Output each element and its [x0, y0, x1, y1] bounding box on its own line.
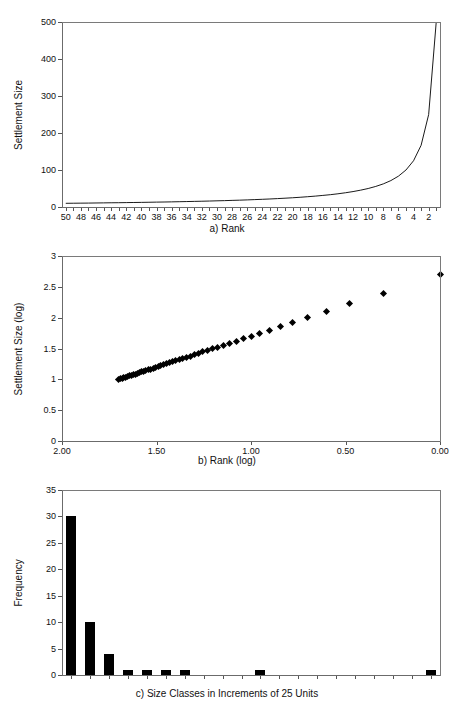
x-axis-tick	[71, 676, 72, 679]
scatter-point	[233, 338, 240, 345]
x-axis-tick-label: 2	[418, 213, 440, 222]
x-axis-tick	[338, 208, 339, 211]
x-axis-tick	[293, 208, 294, 211]
x-axis-tick	[277, 208, 278, 211]
x-axis-tick	[111, 208, 112, 211]
x-axis-tick	[383, 208, 384, 211]
y-axis-tick-label: 2.5	[20, 283, 56, 292]
x-axis-tick	[376, 208, 377, 211]
x-axis-tick	[149, 208, 150, 211]
y-axis-tick	[58, 96, 62, 97]
x-axis-tick	[315, 208, 316, 211]
y-axis-tick	[58, 410, 62, 411]
x-axis-tick	[126, 208, 127, 211]
y-axis-tick	[58, 490, 62, 491]
scatter-point	[289, 319, 296, 326]
y-axis-tick-label: 0	[20, 203, 56, 212]
x-axis-tick	[66, 208, 67, 211]
x-axis-tick	[209, 208, 210, 211]
x-axis-tick	[247, 208, 248, 211]
x-axis-tick	[355, 676, 356, 679]
x-axis-tick	[242, 676, 243, 679]
y-axis-tick-label: 0	[20, 671, 56, 680]
y-axis-tick-label: 0.5	[20, 406, 56, 415]
y-axis-tick-label: 10	[20, 618, 56, 627]
x-axis-tick	[88, 208, 89, 211]
x-axis-tick	[353, 208, 354, 211]
scatter-point	[346, 300, 353, 307]
y-axis-tick-label: 2	[20, 314, 56, 323]
y-axis-tick	[58, 22, 62, 23]
y-axis-tick-label: 35	[20, 486, 56, 495]
bar	[85, 622, 95, 675]
scatter-point	[277, 323, 284, 330]
x-axis-tick	[166, 676, 167, 679]
x-axis-tick	[73, 208, 74, 211]
plot-right-border	[440, 22, 441, 208]
x-axis-tick	[104, 208, 105, 211]
x-axis-tick-label: 2.00	[42, 447, 82, 456]
y-axis-tick-label: 15	[20, 592, 56, 601]
chart-panel-b: Settlement Size (log) b) Rank (log) 00.5…	[0, 236, 454, 472]
y-axis-tick	[58, 516, 62, 517]
y-axis-tick-label: 1.5	[20, 345, 56, 354]
x-axis-tick-label: 1.50	[137, 447, 177, 456]
bar	[104, 654, 114, 675]
scatter-point	[323, 308, 330, 315]
axis-title-x-c: c) Size Classes in Increments of 25 Unit…	[0, 688, 454, 699]
x-axis-tick	[157, 442, 158, 445]
y-axis-tick-label: 30	[20, 512, 56, 521]
x-axis-tick	[308, 208, 309, 211]
x-axis-tick	[223, 676, 224, 679]
x-axis-tick	[414, 208, 415, 211]
x-axis-tick	[172, 208, 173, 211]
scatter-point	[247, 333, 254, 340]
x-axis-tick	[298, 676, 299, 679]
x-axis-tick	[141, 208, 142, 211]
bar	[66, 516, 76, 675]
x-axis-tick	[317, 676, 318, 679]
x-axis-line	[62, 675, 441, 676]
y-axis-tick	[58, 59, 62, 60]
plot-top-border	[62, 490, 441, 491]
scatter-point	[266, 327, 273, 334]
x-axis-tick	[336, 676, 337, 679]
y-axis-tick-label: 100	[20, 166, 56, 175]
y-axis-tick	[58, 287, 62, 288]
plot-area-a	[62, 22, 440, 207]
x-axis-tick	[134, 208, 135, 211]
chart-panel-a: Settlement Size a) Rank 0100200300400500…	[0, 0, 454, 236]
rank-size-curve	[62, 22, 440, 207]
x-axis-tick-label: 0.50	[326, 447, 366, 456]
y-axis-tick-label: 400	[20, 55, 56, 64]
x-axis-tick	[179, 208, 180, 211]
x-axis-tick	[202, 208, 203, 211]
plot-area-b	[62, 256, 440, 441]
x-axis-tick	[440, 442, 441, 445]
y-axis-line	[62, 22, 63, 208]
y-axis-tick	[58, 622, 62, 623]
chart-panel-c: Frequency c) Size Classes in Increments …	[0, 472, 454, 707]
x-axis-tick	[187, 208, 188, 211]
x-axis-tick	[398, 208, 399, 211]
y-axis-line	[62, 490, 63, 676]
x-axis-tick	[251, 442, 252, 445]
x-axis-tick	[90, 676, 91, 679]
plot-right-border	[440, 256, 441, 442]
scatter-point	[304, 314, 311, 321]
y-axis-tick	[58, 170, 62, 171]
x-axis-tick	[260, 676, 261, 679]
figure-rank-size-analysis: Settlement Size a) Rank 0100200300400500…	[0, 0, 454, 707]
x-axis-tick	[157, 208, 158, 211]
x-axis-tick	[279, 676, 280, 679]
y-axis-tick-label: 3	[20, 252, 56, 261]
y-axis-line	[62, 256, 63, 442]
x-axis-tick	[217, 208, 218, 211]
x-axis-tick	[204, 676, 205, 679]
scatter-point	[256, 330, 263, 337]
x-axis-tick	[232, 208, 233, 211]
y-axis-tick-label: 20	[20, 565, 56, 574]
y-axis-tick-label: 1	[20, 375, 56, 384]
x-axis-tick	[109, 676, 110, 679]
x-axis-tick	[361, 208, 362, 211]
